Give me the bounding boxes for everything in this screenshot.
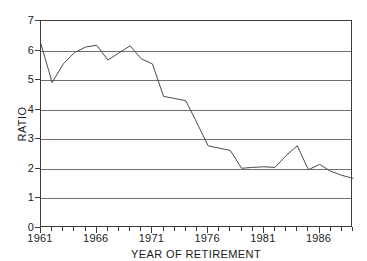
y-tick-label-2: 2 (28, 162, 34, 173)
x-tick-mark-1978 (229, 227, 230, 231)
x-tick-label-1986: 1986 (306, 233, 331, 244)
x-tick-mark-1972 (163, 227, 164, 231)
x-tick-mark-1962 (51, 227, 52, 231)
series-ratio-line (41, 44, 353, 178)
y-tick-label-0: 0 (28, 222, 34, 233)
x-tick-mark-1964 (73, 227, 74, 231)
y-tick-label-4: 4 (28, 103, 34, 114)
y-tick-label-5: 5 (28, 74, 34, 85)
x-tick-mark-1988 (341, 227, 342, 231)
x-tick-mark-1982 (274, 227, 275, 231)
x-tick-mark-1973 (174, 227, 175, 231)
x-tick-mark-1968 (118, 227, 119, 231)
y-axis: 01234567 (0, 20, 40, 227)
x-tick-mark-1967 (107, 227, 108, 231)
x-axis-title: YEAR OF RETIREMENT (40, 248, 352, 260)
y-tick-label-6: 6 (28, 44, 34, 55)
x-tick-mark-1963 (62, 227, 63, 231)
x-tick-mark-1969 (129, 227, 130, 231)
y-tick-label-1: 1 (28, 192, 34, 203)
x-tick-mark-1975 (196, 227, 197, 231)
x-tick-mark-1984 (296, 227, 297, 231)
x-tick-label-1966: 1966 (83, 233, 108, 244)
x-tick-mark-1980 (252, 227, 253, 231)
x-tick-mark-1970 (140, 227, 141, 231)
plot-area (40, 20, 352, 227)
x-tick-label-1971: 1971 (139, 233, 164, 244)
series-line-chart (41, 21, 353, 228)
x-tick-label-1981: 1981 (250, 233, 275, 244)
chart-figure: RATIO 01234567 YEAR OF RETIREMENT 196119… (0, 0, 367, 261)
x-axis: YEAR OF RETIREMENT 196119661971197619811… (40, 227, 352, 261)
y-tick-label-3: 3 (28, 133, 34, 144)
x-tick-mark-1977 (218, 227, 219, 231)
x-tick-label-1976: 1976 (194, 233, 219, 244)
x-tick-mark-1974 (185, 227, 186, 231)
x-tick-mark-1987 (330, 227, 331, 231)
x-tick-label-1961: 1961 (27, 233, 52, 244)
x-tick-mark-1985 (307, 227, 308, 231)
x-tick-mark-1965 (85, 227, 86, 231)
y-tick-label-7: 7 (28, 15, 34, 26)
x-tick-mark-1989 (352, 227, 353, 231)
x-tick-mark-1979 (241, 227, 242, 231)
x-tick-mark-1983 (285, 227, 286, 231)
